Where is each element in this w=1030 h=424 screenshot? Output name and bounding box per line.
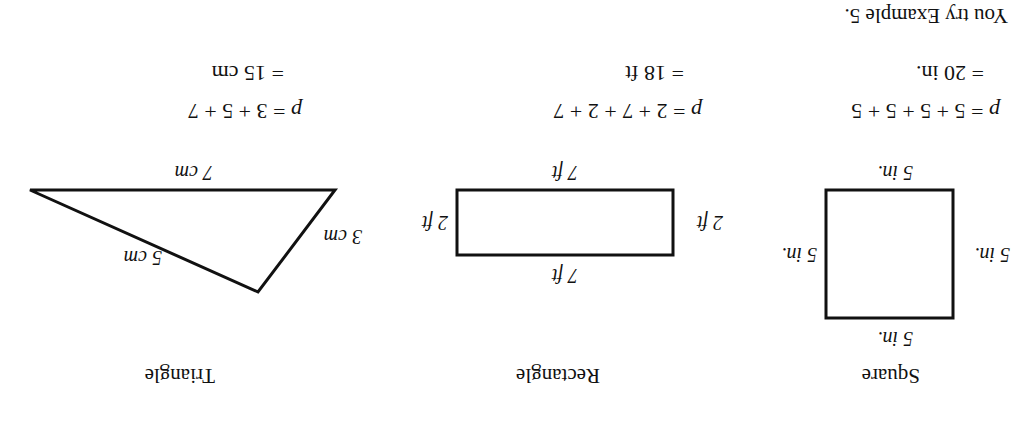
figures-drawing (0, 0, 1030, 424)
triangle-equation-expr: = 3 + 5 + 7 (188, 99, 286, 124)
textbook-page: 5 in. 5 in. 5 in. 5 in. Square 7 ft 2 ft… (0, 0, 1030, 424)
triangle-caption: Triangle (145, 363, 215, 388)
triangle-left-label: 3 cm (324, 225, 362, 248)
square-shape (826, 190, 953, 318)
rectangle-equation-expr: = 2 + 7 + 2 + 7 (553, 99, 685, 124)
rectangle-caption: Rectangle (516, 363, 600, 388)
square-right-label: 5 in. (781, 243, 817, 266)
perimeter-variable: p (989, 99, 1000, 124)
triangle-shape (30, 190, 335, 292)
triangle-right-label: 5 cm (124, 246, 162, 269)
rectangle-shape (457, 190, 673, 255)
triangle-equation-line1: p = 3 + 5 + 7 (188, 98, 302, 124)
square-equation-line1: p = 5 + 5 + 5 + 5 (851, 98, 1000, 124)
triangle-equation-line2: = 15 cm (212, 60, 284, 86)
rectangle-bottom-label: 7 ft (552, 161, 578, 184)
rectangle-equation-line2: = 18 ft (625, 60, 684, 86)
square-equation-line2: = 20 in. (916, 60, 984, 86)
square-caption: Square (862, 363, 920, 388)
triangle-bottom-label: 7 cm (175, 161, 213, 184)
square-bottom-label: 5 in. (877, 161, 913, 184)
square-equation-expr: = 5 + 5 + 5 + 5 (851, 99, 983, 124)
perimeter-variable: p (691, 99, 702, 124)
square-top-label: 5 in. (877, 327, 913, 350)
square-left-label: 5 in. (974, 243, 1010, 266)
rectangle-equation-line1: p = 2 + 7 + 2 + 7 (553, 98, 702, 124)
rectangle-top-label: 7 ft (552, 264, 578, 287)
try-example-prompt: You try Example 5. (844, 3, 1008, 28)
rectangle-right-label: 2 ft (422, 211, 448, 234)
perimeter-variable: p (291, 99, 302, 124)
rectangle-left-label: 2 ft (697, 211, 723, 234)
